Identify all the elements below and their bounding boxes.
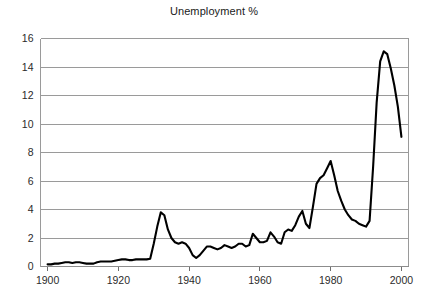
y-tick-label-16: 16 [22, 32, 34, 44]
unemployment-line-chart: 1614121086420 190019201940196019802000 [0, 0, 428, 302]
gridlines-group [41, 39, 409, 239]
x-tick-label-1940: 1940 [177, 274, 201, 286]
x-tick-label-2000: 2000 [390, 274, 414, 286]
y-tick-label-10: 10 [22, 118, 34, 130]
chart-figure: Unemployment % 1614121086420 19001920194… [0, 0, 428, 302]
x-tick-label-1900: 1900 [36, 274, 60, 286]
data-series-group [48, 51, 402, 264]
y-axis-tick-labels: 1614121086420 [22, 32, 34, 272]
y-tick-label-8: 8 [28, 146, 34, 158]
x-tick-marks [48, 267, 402, 271]
y-tick-label-2: 2 [28, 232, 34, 244]
x-axis-tick-labels: 190019201940196019802000 [36, 274, 413, 286]
x-tick-label-1980: 1980 [319, 274, 343, 286]
y-tick-label-4: 4 [28, 203, 34, 215]
y-tick-label-0: 0 [28, 260, 34, 272]
series-line-0 [48, 51, 402, 264]
y-tick-label-12: 12 [22, 89, 34, 101]
y-tick-label-14: 14 [22, 61, 34, 73]
y-tick-label-6: 6 [28, 175, 34, 187]
x-tick-label-1960: 1960 [248, 274, 272, 286]
x-tick-label-1920: 1920 [107, 274, 131, 286]
